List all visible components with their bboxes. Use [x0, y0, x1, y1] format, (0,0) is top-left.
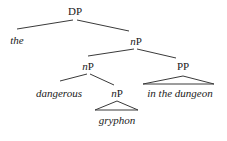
- leaf-in-the-dungeon: in the dungeon: [147, 87, 213, 99]
- np-left-suffix: P: [88, 60, 94, 72]
- branch-dp-the: [17, 20, 73, 29]
- branch-np-pp: [137, 49, 176, 58]
- leaf-gryphon: gryphon: [99, 114, 136, 126]
- branch-np-np: [88, 49, 134, 56]
- triangle-np-low: [95, 101, 138, 110]
- node-np-top: nP: [130, 35, 142, 47]
- leaf-dangerous: dangerous: [36, 87, 82, 99]
- node-dp: DP: [68, 5, 82, 17]
- node-pp: PP: [177, 60, 189, 72]
- branch-dp-np: [77, 20, 129, 31]
- branch-np-np-low: [90, 74, 114, 85]
- syntax-tree: DP the nP nP PP dangerous nP in the dung…: [0, 0, 227, 141]
- leaf-the: the: [10, 34, 24, 46]
- triangle-pp: [143, 76, 214, 84]
- np-low-suffix: P: [117, 87, 123, 99]
- branch-np-dangerous: [60, 74, 87, 81]
- np-top-suffix: P: [136, 35, 142, 47]
- node-np-low: nP: [111, 87, 123, 99]
- node-np-left: nP: [82, 60, 94, 72]
